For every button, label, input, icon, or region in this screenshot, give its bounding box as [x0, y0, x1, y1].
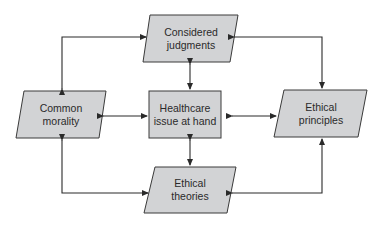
label-line: Considered [164, 26, 218, 39]
label-considered-judgments: Considered judgments [146, 22, 236, 56]
label-line: theories [171, 190, 208, 203]
label-line: principles [299, 114, 343, 127]
label-line: issue at hand [154, 115, 216, 128]
label-line: morality [43, 115, 80, 128]
label-ethical-theories: Ethical theories [147, 173, 233, 207]
label-common-morality: Common morality [18, 98, 104, 132]
label-line: Common [40, 102, 83, 115]
label-line: Ethical [305, 101, 337, 114]
label-line: Healthcare [160, 102, 211, 115]
label-healthcare-issue: Healthcare issue at hand [149, 98, 221, 132]
label-ethical-principles: Ethical principles [278, 97, 364, 131]
label-line: judgments [167, 39, 215, 52]
label-line: Ethical [174, 177, 206, 190]
